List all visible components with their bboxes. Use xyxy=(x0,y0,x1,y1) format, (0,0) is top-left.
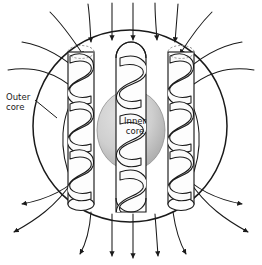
field-line-arrow xyxy=(190,182,248,232)
field-line-arrow xyxy=(175,4,178,42)
outer-core-leader-line xyxy=(35,100,57,118)
inner-core-label: Inner core xyxy=(112,116,158,136)
left-flux-tube xyxy=(67,46,94,211)
field-line-arrow xyxy=(173,212,186,254)
outer-core-label: Outer core xyxy=(6,92,30,112)
field-line-arrow xyxy=(80,212,91,254)
field-line-arrow xyxy=(180,12,212,54)
right-flux-tube xyxy=(167,46,194,211)
field-line-arrow xyxy=(50,12,84,56)
figure-canvas: Outer core Inner core xyxy=(0,0,262,265)
field-line-arrow xyxy=(88,4,91,42)
field-line-arrow xyxy=(155,214,158,256)
